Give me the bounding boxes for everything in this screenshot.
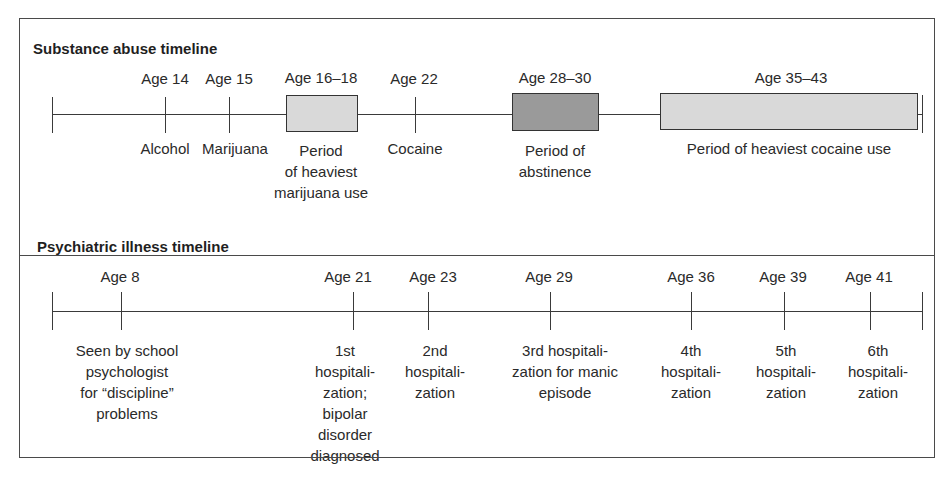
substance-timeline-title: Substance abuse timeline: [33, 40, 217, 57]
event-label: Period of heaviest cocaine use: [687, 140, 891, 157]
event-label: Period of abstinence: [519, 140, 592, 182]
age-label: Age 35–43: [755, 69, 828, 86]
age-label: Age 28–30: [519, 69, 592, 86]
event-label: Marijuana: [202, 140, 268, 157]
age-label: Age 14: [141, 70, 189, 87]
substance-end-tick: [922, 95, 923, 133]
substance-start-tick: [52, 97, 53, 133]
tick-age-14: [165, 97, 166, 133]
tick-age-15: [229, 97, 230, 133]
age-label: Age 22: [390, 70, 438, 87]
box-age-35-43: [660, 93, 918, 130]
box-age-28-30: [512, 93, 599, 131]
tick-age-22: [415, 97, 416, 133]
age-label: Age 16–18: [285, 69, 358, 86]
figure-frame-lower: [19, 254, 935, 458]
event-label: Cocaine: [387, 140, 442, 157]
age-label: Age 15: [205, 70, 253, 87]
event-label: Alcohol: [140, 140, 189, 157]
psychiatric-timeline-title: Psychiatric illness timeline: [37, 238, 229, 255]
event-label: Period of heaviest marijuana use: [274, 140, 368, 203]
box-age-16-18: [286, 95, 358, 132]
